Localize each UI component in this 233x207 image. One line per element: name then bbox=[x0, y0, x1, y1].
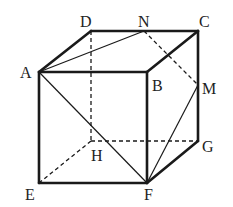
label-C: C bbox=[199, 13, 210, 30]
label-D: D bbox=[80, 13, 92, 30]
cube-svg: D N C A B M H G E F bbox=[0, 0, 233, 207]
segment-AN bbox=[39, 31, 144, 72]
label-N: N bbox=[138, 13, 150, 30]
edge-FG bbox=[147, 141, 198, 183]
edge-HE bbox=[39, 141, 91, 183]
label-M: M bbox=[202, 80, 216, 97]
label-H: H bbox=[91, 147, 103, 164]
segment-AF bbox=[39, 72, 147, 183]
edge-BC bbox=[147, 31, 198, 72]
visible-edges bbox=[39, 31, 198, 183]
label-E: E bbox=[25, 186, 35, 203]
cube-diagram: D N C A B M H G E F bbox=[0, 0, 233, 207]
label-B: B bbox=[152, 77, 163, 94]
edge-DA bbox=[39, 31, 91, 72]
label-A: A bbox=[20, 64, 32, 81]
segment-FM bbox=[147, 85, 198, 183]
label-F: F bbox=[144, 186, 153, 203]
label-G: G bbox=[202, 138, 214, 155]
